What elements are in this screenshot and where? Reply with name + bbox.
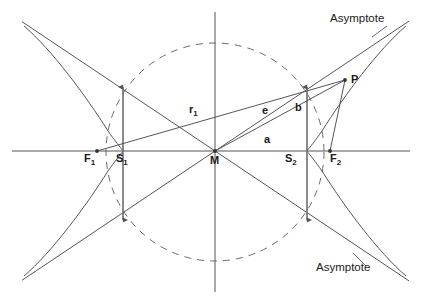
semi-minor-b-label: b bbox=[295, 102, 302, 113]
point-p-marker bbox=[343, 78, 347, 82]
linear-eccentricity-label: e bbox=[262, 105, 268, 116]
asymptote-lower-label: Asymptote bbox=[316, 262, 370, 274]
vertex-left-label: S1 bbox=[116, 153, 128, 167]
vertex-right-sub: 2 bbox=[292, 158, 296, 167]
linear-eccentricity-segment bbox=[215, 80, 345, 151]
point-p-label: P bbox=[351, 74, 358, 85]
focus-left-marker bbox=[95, 149, 99, 153]
asymptote-upper-leader bbox=[372, 26, 387, 37]
focus-left-label: F1 bbox=[84, 153, 95, 167]
focus-left-sub: 1 bbox=[91, 158, 95, 167]
focal-radius-r1-label: r1 bbox=[189, 104, 198, 118]
focus-right-base: F bbox=[330, 153, 337, 164]
vertex-left-sub: 1 bbox=[123, 158, 127, 167]
hyperbola-diagram: Asymptote Asymptote F1 S1 M S2 F2 P r1 e… bbox=[0, 0, 421, 302]
center-label: M bbox=[210, 155, 219, 166]
focus-right-label: F2 bbox=[330, 153, 341, 167]
diagram-canvas bbox=[0, 0, 421, 302]
center-marker bbox=[213, 149, 217, 153]
focus-right-sub: 2 bbox=[337, 158, 341, 167]
focus-left-base: F bbox=[84, 153, 91, 164]
vertex-right-label: S2 bbox=[285, 153, 297, 167]
semi-major-a-label: a bbox=[264, 134, 270, 145]
asymptote-upper-label: Asymptote bbox=[330, 13, 384, 25]
focal-radius-r1-sub: 1 bbox=[193, 109, 197, 118]
